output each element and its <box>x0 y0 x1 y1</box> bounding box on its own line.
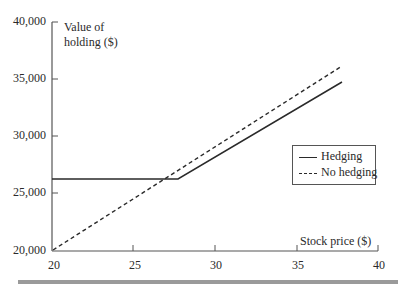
legend: Hedging No hedging <box>292 145 376 185</box>
dashed-line-swatch-icon <box>299 173 317 174</box>
x-axis-label: Stock price ($) <box>300 234 371 249</box>
legend-item-no-hedging: No hedging <box>299 165 377 179</box>
legend-item-hedging: Hedging <box>299 149 362 163</box>
y-tick-label: 40,000 <box>0 14 46 29</box>
legend-label: No hedging <box>321 165 377 179</box>
x-tick-label: 30 <box>201 258 231 273</box>
chart: 40,000 35,000 30,000 25,000 20,000 20 25… <box>0 0 398 289</box>
y-axis-label-line2: holding ($) <box>64 35 154 50</box>
y-axis-label-line1: Value of <box>64 20 154 35</box>
legend-label: Hedging <box>321 149 362 163</box>
y-tick-label: 20,000 <box>0 243 46 258</box>
y-axis-ticks <box>52 22 58 193</box>
y-tick-label: 30,000 <box>0 128 46 143</box>
x-tick-label: 40 <box>364 258 394 273</box>
bottom-divider <box>18 280 398 284</box>
y-axis-label: Value of holding ($) <box>64 20 154 50</box>
x-tick-label: 25 <box>120 258 150 273</box>
x-tick-label: 35 <box>283 258 313 273</box>
x-tick-label: 20 <box>39 258 69 273</box>
y-tick-label: 35,000 <box>0 71 46 86</box>
y-tick-label: 25,000 <box>0 185 46 200</box>
solid-line-swatch-icon <box>299 157 317 158</box>
